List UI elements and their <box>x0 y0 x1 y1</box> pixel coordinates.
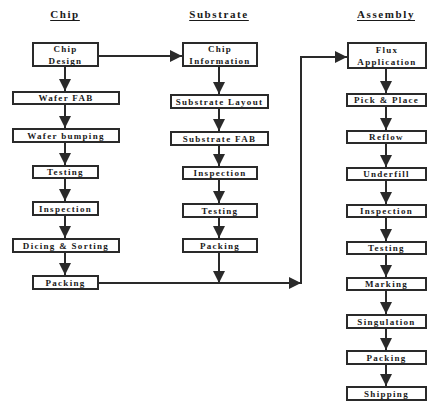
chip-step-wafer-fab: Wafer FAB <box>12 91 120 105</box>
header-chip: Chip <box>50 8 80 20</box>
chip-step-packing: Packing <box>32 275 99 290</box>
assembly-step-shipping: Shipping <box>346 386 427 401</box>
assembly-step-packing: Packing <box>346 350 427 365</box>
chip-step-inspection: Inspection <box>32 201 99 216</box>
header-substrate: Substrate <box>189 8 249 20</box>
substrate-step-substrate-layout: Substrate Layout <box>170 94 269 109</box>
assembly-step-testing: Testing <box>346 241 427 255</box>
chip-step-wafer-bumping: Wafer bumping <box>12 128 120 143</box>
assembly-step-reflow: Reflow <box>346 130 427 144</box>
chip-step-chip-design: Chip Design <box>32 42 99 67</box>
assembly-step-flux-application: Flux Application <box>347 42 427 69</box>
assembly-step-pick-place: Pick & Place <box>346 93 427 107</box>
substrate-step-chip-information: Chip Information <box>182 42 258 67</box>
substrate-step-testing: Testing <box>182 203 258 218</box>
header-assembly: Assembly <box>357 8 415 20</box>
chip-step-dicing-sorting: Dicing & Sorting <box>12 238 120 253</box>
assembly-step-inspection: Inspection <box>346 204 427 218</box>
assembly-step-singulation: Singulation <box>346 314 427 329</box>
assembly-step-marking: Marking <box>346 277 427 291</box>
substrate-step-substrate-fab: Substrate FAB <box>170 131 269 146</box>
assembly-step-underfill: Underfill <box>346 167 427 181</box>
substrate-step-packing: Packing <box>182 238 258 253</box>
substrate-step-inspection: Inspection <box>182 166 258 180</box>
chip-step-testing: Testing <box>32 165 99 179</box>
